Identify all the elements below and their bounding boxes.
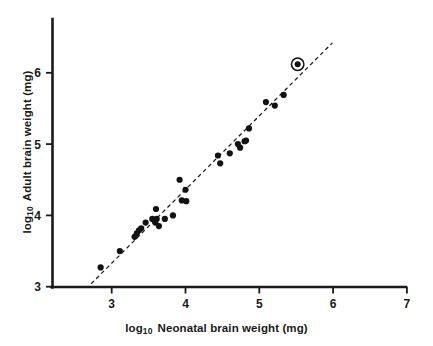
data-point xyxy=(170,212,176,218)
data-point xyxy=(162,216,168,222)
x-axis-title-prefix: log xyxy=(125,322,143,334)
data-point xyxy=(246,125,252,131)
y-axis-title-prefix: log xyxy=(21,216,33,234)
data-point xyxy=(217,160,223,166)
data-point xyxy=(183,198,189,204)
data-point xyxy=(156,223,162,229)
x-axis-title: log10Neonatal brain weight (mg) xyxy=(0,322,433,334)
fit-line-segment xyxy=(91,43,332,284)
data-point xyxy=(138,225,144,231)
data-point xyxy=(182,187,188,193)
data-point xyxy=(153,206,159,212)
y-tick-label-6: 6 xyxy=(34,66,41,80)
y-axis-ticks: 3456 xyxy=(34,66,52,294)
plot-canvas: 34567 3456 xyxy=(0,0,433,346)
x-axis-title-subscript: 10 xyxy=(143,326,153,336)
y-axis-title-rest: Adult brain weight (mg) xyxy=(21,71,33,202)
x-tick-label-7: 7 xyxy=(404,297,411,311)
x-tick-label-4: 4 xyxy=(182,297,189,311)
x-axis-title-rest: Neonatal brain weight (mg) xyxy=(158,322,308,334)
data-point xyxy=(281,92,287,98)
data-point xyxy=(176,177,182,183)
y-axis-title-wrapper: log10Adult brain weight (mg) xyxy=(0,0,30,300)
x-tick-label-3: 3 xyxy=(108,297,115,311)
x-axis-ticks: 34567 xyxy=(108,287,410,311)
data-point xyxy=(98,264,104,270)
x-tick-label-5: 5 xyxy=(256,297,263,311)
y-axis-title: log10Adult brain weight (mg) xyxy=(21,22,33,282)
regression-fit-line xyxy=(91,43,332,284)
data-point xyxy=(243,137,249,143)
y-tick-label-5: 5 xyxy=(34,138,41,152)
scatter-plot-figure: 34567 3456 log10Adult brain weight (mg) … xyxy=(0,0,433,346)
y-tick-label-3: 3 xyxy=(34,280,41,294)
data-point xyxy=(117,248,123,254)
data-point xyxy=(215,152,221,158)
y-tick-label-4: 4 xyxy=(34,209,41,223)
data-points xyxy=(98,58,304,271)
data-point xyxy=(143,219,149,225)
x-tick-label-6: 6 xyxy=(330,297,337,311)
data-point xyxy=(272,102,278,108)
data-point xyxy=(237,145,243,151)
data-point xyxy=(263,99,269,105)
data-point xyxy=(227,150,233,156)
y-axis-title-subscript: 10 xyxy=(25,206,35,216)
data-point-highlighted xyxy=(295,61,301,67)
